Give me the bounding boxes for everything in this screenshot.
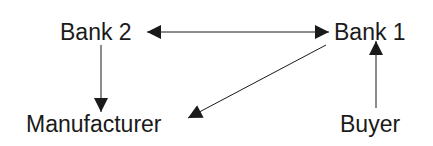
node-bank-1: Bank 1 — [334, 21, 406, 44]
edge-bank1-manufacturer — [188, 45, 326, 118]
node-manufacturer: Manufacturer — [26, 113, 162, 136]
node-buyer: Buyer — [340, 113, 400, 136]
node-bank-2: Bank 2 — [60, 21, 132, 44]
